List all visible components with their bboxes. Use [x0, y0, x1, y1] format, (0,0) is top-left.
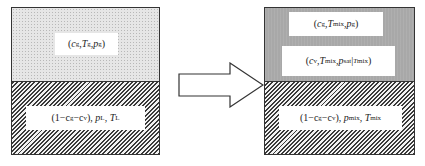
paren: )	[368, 55, 371, 67]
sep: ,	[105, 112, 108, 124]
var-c: c	[317, 18, 321, 30]
gas-mix-label: (cg,Tmix, pg)	[289, 12, 383, 36]
var-p: p	[344, 112, 349, 124]
text: ),	[335, 112, 341, 124]
final-state-box: (cg,Tmix, pg) (cv,Tmix, psat | Tmix) (1−…	[264, 7, 415, 155]
text: (1−c	[52, 112, 70, 124]
initial-state-box: (cg,Tg,pg) (1−cg−cv), pL, TL	[11, 7, 160, 155]
liquid-mix-region: (1−cg−cv), pmix, Tmix	[265, 82, 414, 154]
text: −c	[73, 112, 83, 124]
mixture-gas-region: (cg,Tmix, pg) (cv,Tmix, psat | Tmix)	[265, 8, 414, 82]
transition-arrow-icon	[178, 62, 264, 108]
gas-vapor-region: (cg,Tg,pg)	[12, 8, 159, 82]
paren: )	[355, 18, 358, 30]
liquid-region: (1−cg−cv), pL, TL	[12, 82, 159, 154]
text: ),	[87, 112, 93, 124]
liquid-state-label: (1−cg−cv), pL, TL	[26, 106, 145, 130]
gas-state-label: (cg,Tg,pg)	[55, 33, 118, 55]
sep: ,	[360, 112, 363, 124]
liquid-mix-label: (1−cg−cv), pmix, Tmix	[279, 106, 402, 130]
text: −c	[322, 112, 332, 124]
vapor-mix-label: (cv,Tmix, psat | Tmix)	[282, 46, 395, 76]
paren: )	[102, 38, 105, 50]
text: (1−c	[300, 112, 318, 124]
